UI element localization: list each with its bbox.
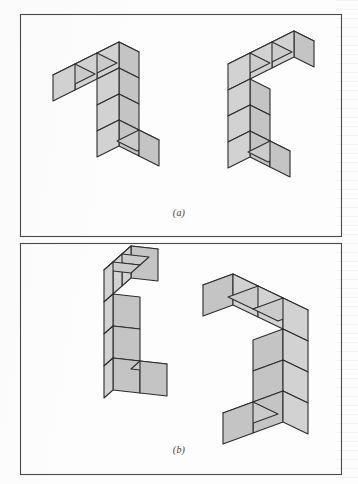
cube-figure-a-left [53,42,159,166]
cube [104,358,140,398]
cube-face [294,31,314,67]
cube-face [223,402,253,444]
cube-face [139,130,159,166]
figure-page: (a) (b) [0,0,358,484]
cube-face [270,141,290,177]
cube-figure-b-left [104,246,167,398]
cube-face [113,294,140,329]
cube-stacks [53,31,314,444]
cube-face [203,274,233,316]
cube-face [113,358,140,393]
cube-face [113,326,140,361]
cube-face [140,361,167,396]
cube-face [113,254,122,294]
cube-face [53,64,75,101]
cube-figure-b-right [203,274,308,444]
cube-figure-a-right [228,31,314,177]
panel-caption-a: (a) [159,207,199,218]
panel-caption-b: (b) [159,444,199,455]
cube-figures-svg [0,0,358,484]
